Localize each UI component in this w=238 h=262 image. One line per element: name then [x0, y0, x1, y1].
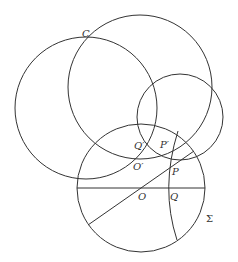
label-q: Q — [170, 191, 178, 202]
label-sigma: Σ — [206, 213, 213, 224]
label-p-prime: P′ — [159, 139, 170, 150]
label-c: C — [82, 28, 90, 39]
left-circle — [15, 37, 157, 179]
label-p: P — [171, 166, 179, 177]
label-o: O — [138, 191, 146, 202]
label-q-prime: Q′ — [134, 140, 145, 151]
label-o-prime: O′ — [133, 161, 144, 172]
arc-through-q — [169, 131, 178, 240]
geometry-diagram: C Q′ P′ O′ P O Q Σ — [0, 0, 238, 262]
